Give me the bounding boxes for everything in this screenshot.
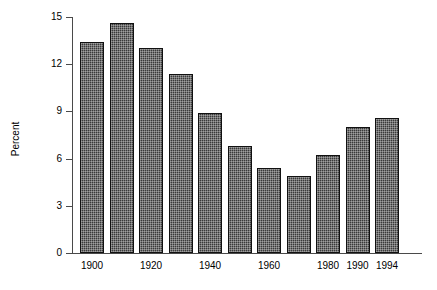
bar <box>80 42 104 253</box>
x-tick-label: 1920 <box>135 261 167 271</box>
y-tick-label-text: 6 <box>22 154 62 164</box>
y-tick-mark <box>66 253 72 254</box>
x-tick-label: 1900 <box>76 261 108 271</box>
y-axis-title: Percent <box>0 0 30 290</box>
y-tick-label-text: 12 <box>22 59 62 69</box>
bar <box>169 74 193 253</box>
y-tick-label: 3 <box>18 201 62 212</box>
y-tick-label-text: 0 <box>22 248 62 258</box>
bar <box>257 168 281 253</box>
y-tick-label: 0 <box>18 248 62 259</box>
x-axis-line <box>72 253 422 254</box>
x-tick-label: 1940 <box>194 261 226 271</box>
x-tick-label: 1980 <box>312 261 344 271</box>
bar <box>198 113 222 253</box>
bar-chart: Percent 03691215 19001920194019601980199… <box>0 0 437 290</box>
bar <box>228 146 252 253</box>
x-tick-label: 1960 <box>253 261 285 271</box>
y-tick-label: 9 <box>18 106 62 117</box>
bar <box>139 48 163 253</box>
bar <box>110 23 134 253</box>
y-tick-label: 15 <box>18 12 62 23</box>
y-tick-label: 12 <box>18 59 62 70</box>
bar <box>316 155 340 253</box>
y-tick-label-text: 15 <box>22 12 62 22</box>
y-tick-label-text: 3 <box>22 201 62 211</box>
plot-area <box>72 17 422 253</box>
bar <box>375 118 399 253</box>
y-axis-title-text: Percent <box>10 122 21 156</box>
y-tick-label-text: 9 <box>22 106 62 116</box>
bar <box>346 127 370 253</box>
bar <box>287 176 311 253</box>
x-tick-label: 1994 <box>371 261 403 271</box>
x-tick-label: 1990 <box>342 261 374 271</box>
y-tick-label: 6 <box>18 154 62 165</box>
